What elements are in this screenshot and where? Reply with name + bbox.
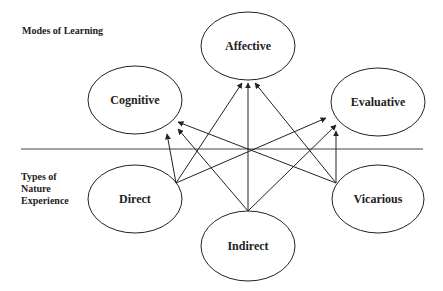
node-indirect: Indirect bbox=[201, 211, 295, 281]
node-label-affective: Affective bbox=[225, 39, 272, 53]
node-affective: Affective bbox=[201, 12, 295, 80]
node-evaluative: Evaluative bbox=[331, 68, 425, 136]
node-label-indirect: Indirect bbox=[227, 239, 268, 253]
edges bbox=[167, 83, 336, 211]
learning-diagram: Cognitive Affective Evaluative Direct In… bbox=[0, 0, 443, 291]
edge-vicarious-affective bbox=[255, 83, 336, 183]
node-direct: Direct bbox=[88, 165, 182, 233]
node-label-cognitive: Cognitive bbox=[110, 93, 160, 107]
node-label-evaluative: Evaluative bbox=[351, 95, 406, 109]
edge-direct-affective bbox=[176, 83, 242, 183]
node-label-vicarious: Vicarious bbox=[354, 192, 403, 206]
edge-indirect-evaluative bbox=[248, 125, 336, 211]
node-vicarious: Vicarious bbox=[332, 165, 424, 233]
edge-vicarious-cognitive bbox=[178, 122, 336, 183]
node-cognitive: Cognitive bbox=[88, 66, 182, 134]
edge-indirect-cognitive bbox=[178, 129, 248, 211]
node-label-direct: Direct bbox=[119, 192, 151, 206]
